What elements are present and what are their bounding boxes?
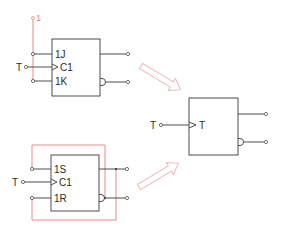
conversion-arrow-bottom [135, 157, 182, 193]
arrow-down-right-icon [137, 60, 184, 96]
jk-flipflop: 1 1J T C1 1K [16, 13, 130, 96]
junction-dot [104, 197, 106, 199]
logic-one-label: 1 [36, 13, 41, 23]
clock-edge-icon [51, 179, 57, 185]
t-input-t-label: T [199, 120, 205, 131]
sr-input-r-label: 1R [54, 193, 67, 204]
sr-r-terminal [30, 196, 33, 199]
jk-input-c1-label: C1 [60, 62, 73, 73]
jk-clock-source-label: T [16, 62, 22, 73]
sr-clock-source-label: T [12, 177, 18, 188]
t-qbar-terminal [264, 140, 267, 143]
sr-s-terminal [30, 167, 33, 170]
jk-input-j-label: 1J [55, 49, 66, 60]
jk-q-terminal [126, 52, 129, 55]
sr-input-c1-label: C1 [59, 177, 72, 188]
sr-feedback-wires [32, 145, 116, 220]
sr-flipflop: 1S T C1 1R [12, 145, 129, 220]
flipflop-conversion-diagram: 1 1J T C1 1K [0, 0, 288, 237]
t-flipflop-box [189, 98, 238, 155]
arrow-up-right-icon [135, 157, 182, 193]
t-q-terminal [264, 112, 267, 115]
clock-edge-icon [189, 122, 196, 128]
jk-qbar-terminal [126, 80, 129, 83]
jk-clock-terminal [24, 65, 27, 68]
junction-dot [115, 168, 117, 170]
clock-edge-icon [52, 64, 58, 70]
sr-clock-terminal [21, 180, 24, 183]
sr-input-s-label: 1S [54, 164, 67, 175]
sr-q-terminal [125, 167, 128, 170]
jk-tie-high-wire: 1 [32, 13, 42, 81]
t-flipflop: T T [150, 98, 268, 155]
inversion-bubble-icon [99, 195, 105, 202]
jk-k-terminal [31, 79, 34, 82]
inversion-bubble-icon [100, 79, 106, 86]
jk-j-terminal [31, 52, 34, 55]
t-clock-source-label: T [150, 120, 156, 131]
jk-input-k-label: 1K [55, 76, 68, 87]
logic-one-terminal [32, 17, 35, 20]
conversion-arrow-top [137, 60, 184, 96]
inversion-bubble-icon [238, 139, 244, 146]
sr-qbar-terminal [125, 196, 128, 199]
t-clock-terminal [159, 123, 162, 126]
